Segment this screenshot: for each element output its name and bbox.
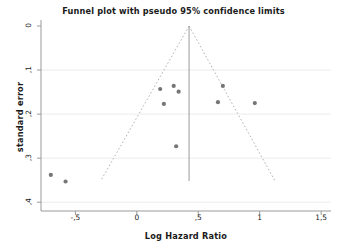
y-tick-label: ,1: [24, 60, 33, 80]
data-point: [49, 173, 53, 177]
x-tick-label: ,5: [183, 213, 213, 222]
x-tick-label: 1: [245, 213, 275, 222]
x-tick-label: 0: [122, 213, 152, 222]
data-point: [158, 87, 162, 91]
x-tick-label: -,5: [60, 213, 90, 222]
data-point: [177, 90, 181, 94]
data-point: [63, 179, 67, 183]
x-tick-label: 1,5: [306, 213, 336, 222]
data-point: [172, 84, 176, 88]
funnel-plot-figure: Funnel plot with pseudo 95% confidence l…: [0, 0, 347, 251]
plot-canvas: [0, 0, 347, 251]
x-axis-title: Log Hazard Ratio: [41, 231, 331, 241]
y-tick-label: ,4: [24, 192, 33, 212]
data-point: [162, 102, 166, 106]
y-tick-label: ,3: [24, 148, 33, 168]
y-tick-label: 0: [24, 16, 33, 36]
data-point: [174, 144, 178, 148]
data-point: [216, 100, 220, 104]
data-point: [253, 101, 257, 105]
y-tick-label: ,2: [24, 104, 33, 124]
data-point: [221, 84, 225, 88]
